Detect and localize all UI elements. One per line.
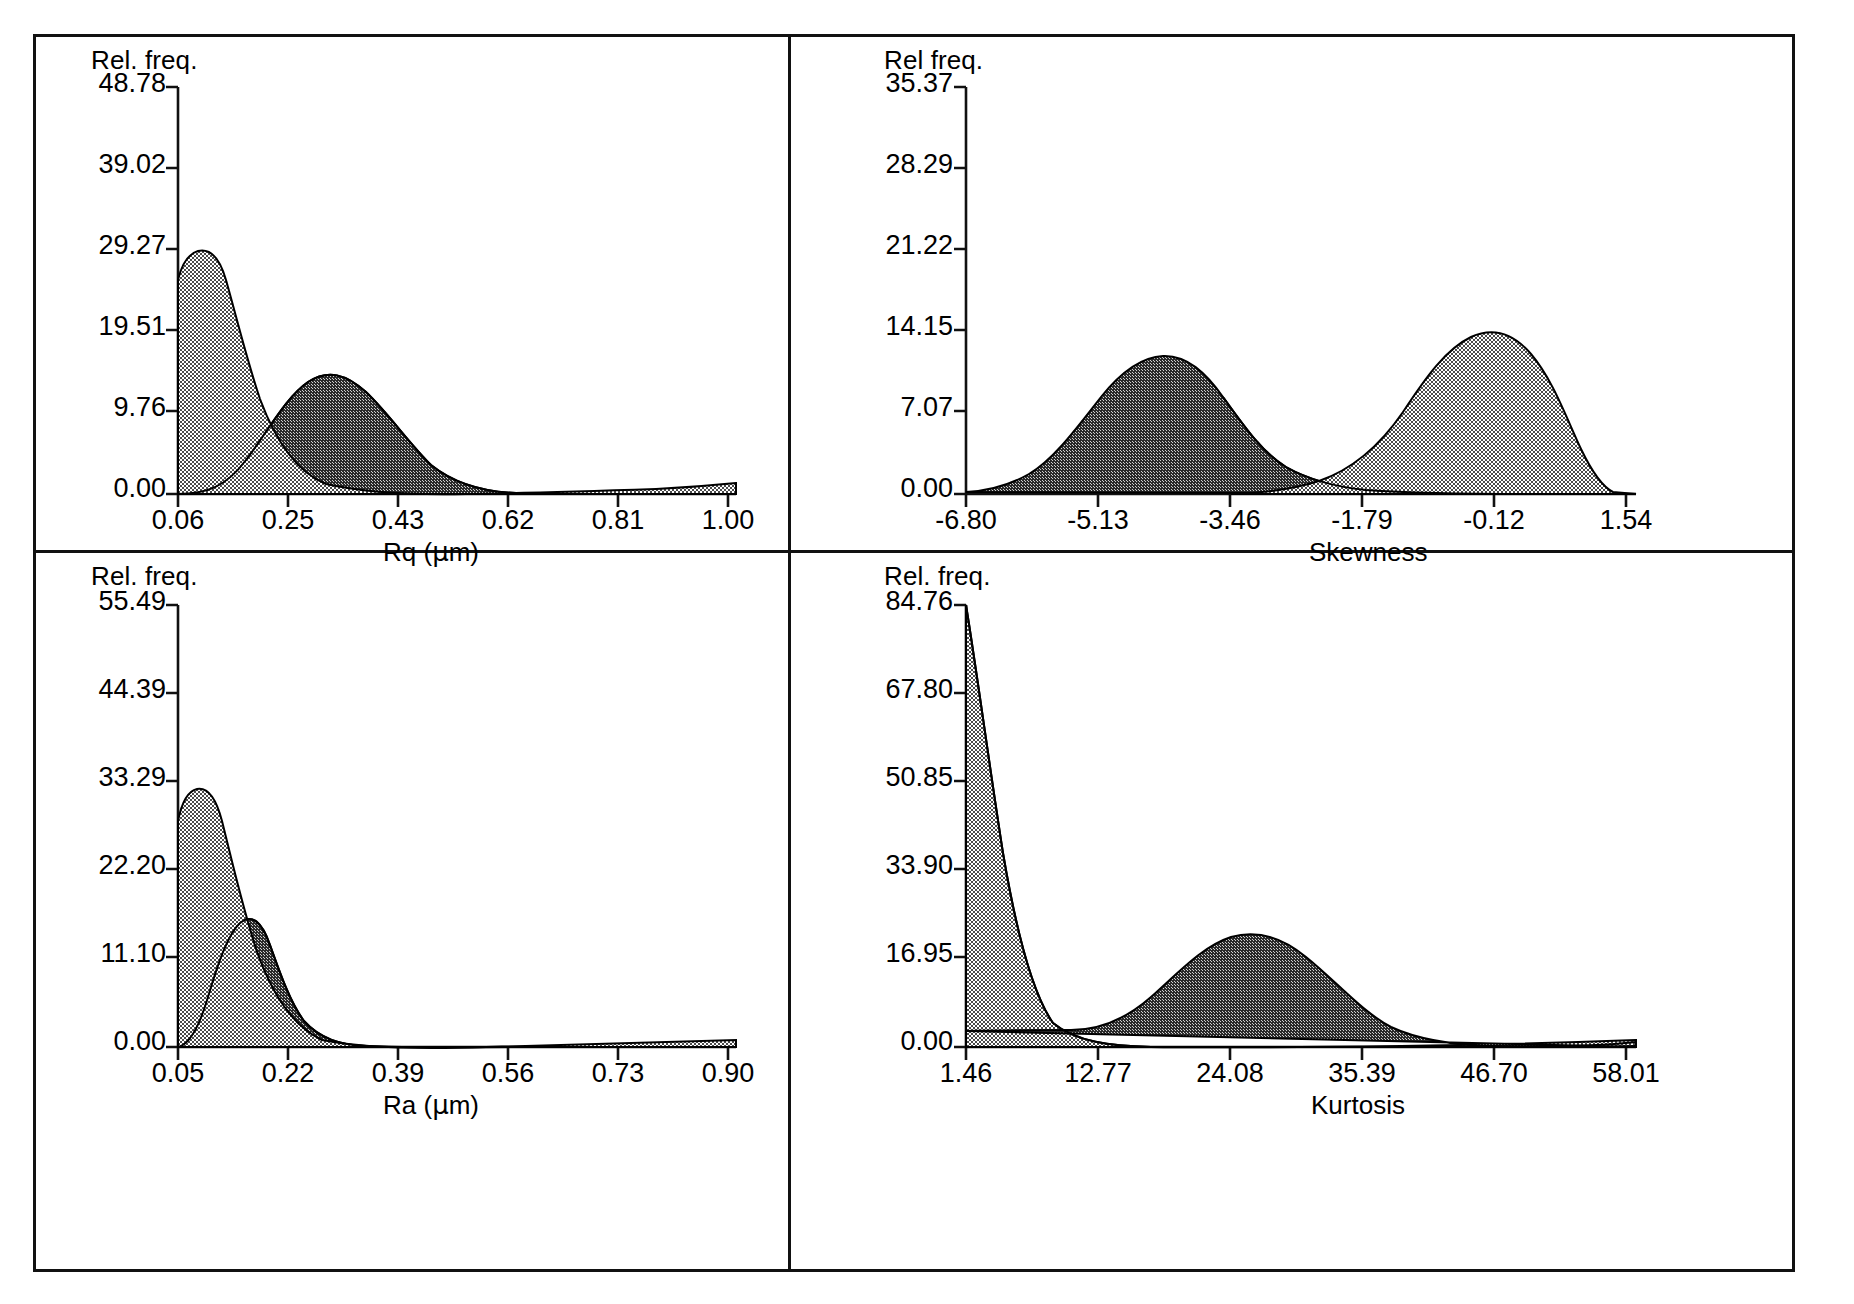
figure-sheet: Rel. freq. 48.78 39.02 29.27 19.51 9.76 … (0, 0, 1854, 1304)
panel-kurtosis: Rel. freq. 84.76 67.80 50.85 33.90 16.95… (791, 553, 1795, 1272)
panel-skewness-plot (791, 37, 1795, 550)
panel-rq-plot (36, 37, 788, 550)
panel-ra-plot (36, 553, 788, 1272)
panel-ra-series-light (178, 789, 736, 1048)
panel-kurtosis-series-dark (966, 934, 1636, 1047)
panel-rq-series-light (178, 251, 736, 495)
panel-skewness: Rel freq. 35.37 28.29 21.22 14.15 7.07 0… (791, 37, 1795, 550)
panel-kurtosis-plot (791, 553, 1795, 1272)
panel-rq: Rel. freq. 48.78 39.02 29.27 19.51 9.76 … (36, 37, 788, 550)
panel-ra: Rel. freq. 55.49 44.39 33.29 22.20 11.10… (36, 553, 788, 1272)
figure-outer-frame: Rel. freq. 48.78 39.02 29.27 19.51 9.76 … (33, 34, 1795, 1272)
